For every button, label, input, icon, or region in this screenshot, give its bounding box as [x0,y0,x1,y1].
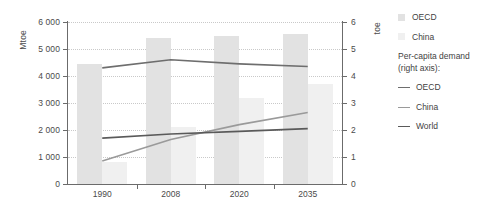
x-tick [205,185,206,189]
legend-line-icon [398,87,410,88]
x-tick-label: 2035 [298,189,317,199]
x-tick-label: 1990 [93,189,112,199]
line-world [102,129,308,138]
line-oecd [102,60,308,68]
legend-group-title-line2: (right axis): [398,63,478,74]
left-tick [63,49,67,50]
right-tick [343,184,347,185]
left-tick-label: 1 000 [0,152,60,162]
right-tick-label: 6 [351,17,356,27]
chart-root: Mtoe toe 01 0002 0003 0004 0005 0006 000… [0,0,480,210]
left-tick-label: 2 000 [0,125,60,135]
left-tick [63,22,67,23]
left-tick-label: 0 [0,179,60,189]
left-tick [63,184,67,185]
left-tick-label: 4 000 [0,71,60,81]
right-tick-label: 5 [351,44,356,54]
legend: OECDChina Per-capita demand (right axis)… [398,12,478,141]
line-series [68,22,342,184]
right-tick [343,130,347,131]
right-tick [343,76,347,77]
right-tick-label: 1 [351,152,356,162]
legend-label: China [412,32,434,43]
right-tick [343,49,347,50]
left-tick-label: 6 000 [0,17,60,27]
left-tick [63,76,67,77]
legend-line-icon [398,107,410,108]
legend-line-icon [398,126,410,127]
right-tick [343,103,347,104]
legend-item-bar-china[interactable]: China [398,32,478,43]
x-tick-label: 2020 [230,189,249,199]
right-tick-label: 0 [351,179,356,189]
legend-swatch-icon [398,14,405,21]
legend-bar-entries: OECDChina [398,12,478,42]
legend-group-title-line1: Per-capita demand [398,51,478,62]
legend-item-line-oecd[interactable]: OECD [398,82,478,93]
left-tick-label: 3 000 [0,98,60,108]
legend-line-entries: OECDChinaWorld [398,82,478,132]
right-tick [343,157,347,158]
legend-item-bar-oecd[interactable]: OECD [398,12,478,23]
plot-area [68,22,342,184]
left-tick [63,157,67,158]
x-tick [274,185,275,189]
legend-label: OECD [412,12,437,23]
legend-label: OECD [416,82,441,93]
legend-group-title: Per-capita demand (right axis): [398,51,478,74]
legend-label: China [416,102,438,113]
left-tick [63,103,67,104]
x-tick-label: 2008 [161,189,180,199]
legend-item-line-world[interactable]: World [398,121,478,132]
right-axis-title: toe [372,22,382,34]
legend-swatch-icon [398,33,405,40]
right-tick [343,22,347,23]
right-tick-label: 3 [351,98,356,108]
legend-item-line-china[interactable]: China [398,102,478,113]
left-tick-label: 5 000 [0,44,60,54]
right-tick-label: 2 [351,125,356,135]
left-tick [63,130,67,131]
x-tick [137,185,138,189]
right-tick-label: 4 [351,71,356,81]
legend-label: World [416,121,438,132]
